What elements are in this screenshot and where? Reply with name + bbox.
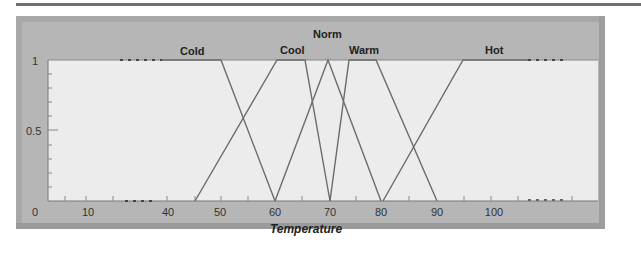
x-tick-label-100: 100 [485, 206, 503, 218]
x-axis-title: Temperature [270, 222, 343, 236]
series-label-hot: Hot [485, 44, 504, 56]
y-tick-label-1: 1 [32, 55, 38, 67]
x-tick-label-60: 60 [269, 206, 281, 218]
x-tick-label-0: 0 [32, 206, 38, 218]
x-tick-label-90: 90 [431, 206, 443, 218]
x-tick-label-80: 80 [375, 206, 387, 218]
x-tick-label-10: 10 [82, 206, 94, 218]
x-tick-label-40: 40 [162, 206, 174, 218]
plot-area [48, 60, 598, 201]
x-tick-label-70: 70 [324, 206, 336, 218]
series-label-norm: Norm [313, 28, 342, 40]
series-label-cold: Cold [180, 45, 204, 57]
series-label-warm: Warm [349, 44, 379, 56]
y-tick-label-0.5: 0.5 [26, 125, 41, 137]
fuzzy-membership-chart: Cold Cool Norm Warm Hot 1 0.5 0 10 40 50… [0, 0, 641, 257]
x-tick-label-50: 50 [214, 206, 226, 218]
series-label-cool: Cool [280, 44, 304, 56]
